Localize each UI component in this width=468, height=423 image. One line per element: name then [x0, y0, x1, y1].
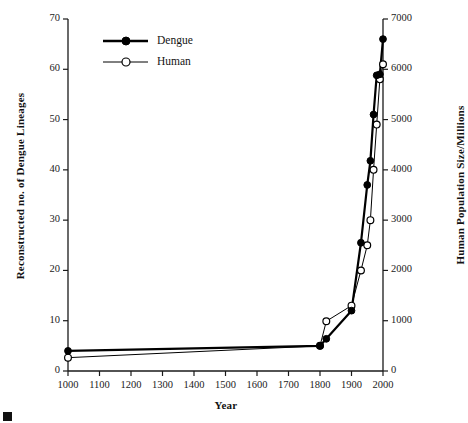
series-markers-dengue [65, 36, 387, 355]
right-tick-label: 7000 [391, 12, 425, 23]
right-tick-label: 0 [391, 364, 425, 375]
legend-label-human: Human [157, 55, 191, 67]
legend [103, 37, 148, 66]
data-point-dengue [323, 335, 330, 342]
data-series-group [65, 36, 387, 361]
data-point-human [364, 242, 371, 249]
data-point-dengue [65, 347, 72, 354]
right-tick-label: 2000 [391, 263, 425, 274]
data-point-human [380, 61, 387, 68]
data-point-human [323, 318, 330, 325]
x-axis-title: Year [68, 399, 384, 411]
data-point-human [65, 354, 72, 361]
series-line-human [68, 64, 383, 357]
data-point-dengue [358, 239, 365, 246]
left-tick-label: 40 [26, 163, 60, 174]
left-tick-label: 70 [26, 12, 60, 23]
data-point-dengue [367, 157, 374, 164]
chart-figure: Dengue Human Reconstructed no. of Dengue… [0, 0, 468, 423]
data-point-human [370, 166, 377, 173]
series-markers-human [65, 61, 387, 361]
data-point-dengue [370, 111, 377, 118]
data-point-dengue [317, 342, 324, 349]
legend-marker-dengue-icon [122, 37, 130, 45]
left-tick-label: 60 [26, 62, 60, 73]
x-tick-label: 2000 [363, 379, 403, 390]
right-axis-ticks [383, 19, 388, 371]
right-tick-label: 5000 [391, 113, 425, 124]
left-tick-label: 10 [26, 314, 60, 325]
left-tick-label: 50 [26, 113, 60, 124]
right-tick-label: 1000 [391, 314, 425, 325]
right-tick-label: 6000 [391, 62, 425, 73]
legend-marker-human-icon [122, 58, 130, 66]
data-point-dengue [364, 182, 371, 189]
axes [63, 19, 388, 376]
data-point-human [373, 121, 380, 128]
right-tick-label: 4000 [391, 163, 425, 174]
right-tick-label: 3000 [391, 213, 425, 224]
series-line-dengue [68, 39, 383, 351]
right-axis-title: Human Population Size/Millions [454, 10, 468, 360]
left-tick-label: 30 [26, 213, 60, 224]
corner-marker [3, 412, 12, 421]
left-tick-label: 0 [26, 364, 60, 375]
left-tick-label: 20 [26, 263, 60, 274]
data-point-dengue [376, 71, 383, 78]
left-axis-ticks [63, 19, 68, 371]
data-point-human [358, 267, 365, 274]
legend-label-dengue: Dengue [157, 34, 193, 46]
data-point-human [367, 217, 374, 224]
x-axis-ticks [68, 371, 383, 376]
data-point-dengue [380, 36, 387, 43]
data-point-dengue [348, 307, 355, 314]
